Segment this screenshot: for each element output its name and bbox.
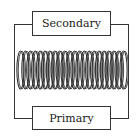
- primary-label: Primary: [49, 112, 94, 125]
- primary-label-box: Primary: [32, 106, 111, 130]
- secondary-label: Secondary: [42, 17, 101, 30]
- secondary-label-box: Secondary: [32, 11, 111, 36]
